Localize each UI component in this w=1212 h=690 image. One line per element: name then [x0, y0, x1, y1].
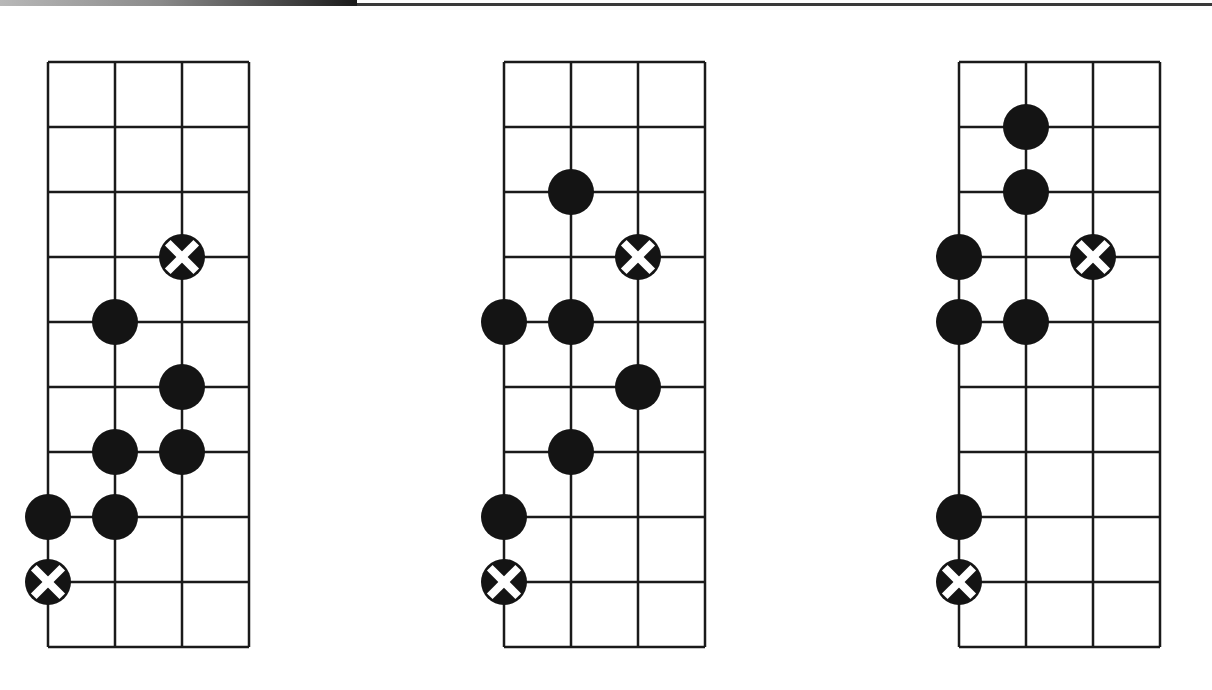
note-dot-icon [481, 299, 527, 345]
root-note-x-icon [481, 559, 527, 605]
note-dot-icon [548, 429, 594, 475]
note-dot-icon [1003, 299, 1049, 345]
fretboard-grid [932, 35, 1187, 674]
grid-lines [504, 62, 705, 647]
note-dot-icon [92, 299, 138, 345]
note-dot-icon [25, 494, 71, 540]
note-dot-icon [936, 299, 982, 345]
note-dot-icon [1003, 104, 1049, 150]
root-note-x-icon [936, 559, 982, 605]
root-note-x-icon [1070, 234, 1116, 280]
note-dot-icon [548, 169, 594, 215]
grid-lines [959, 62, 1160, 647]
fretboard-diagram-3 [932, 35, 1187, 674]
note-dot-icon [1003, 169, 1049, 215]
note-dot-icon [936, 494, 982, 540]
root-note-x-icon [25, 559, 71, 605]
header-rule [357, 3, 1212, 6]
note-dot-icon [159, 364, 205, 410]
fretboard-diagram-1 [21, 35, 276, 674]
root-note-x-icon [615, 234, 661, 280]
fretboard-grid [477, 35, 732, 674]
note-dot-icon [481, 494, 527, 540]
page [0, 0, 1212, 690]
note-dot-icon [936, 234, 982, 280]
root-note-x-icon [159, 234, 205, 280]
fretboard-grid [21, 35, 276, 674]
note-dot-icon [159, 429, 205, 475]
note-dot-icon [615, 364, 661, 410]
grid-lines [48, 62, 249, 647]
fretboard-diagram-2 [477, 35, 732, 674]
header-gradient-band [0, 0, 357, 6]
note-dot-icon [92, 429, 138, 475]
note-dot-icon [92, 494, 138, 540]
note-dot-icon [548, 299, 594, 345]
